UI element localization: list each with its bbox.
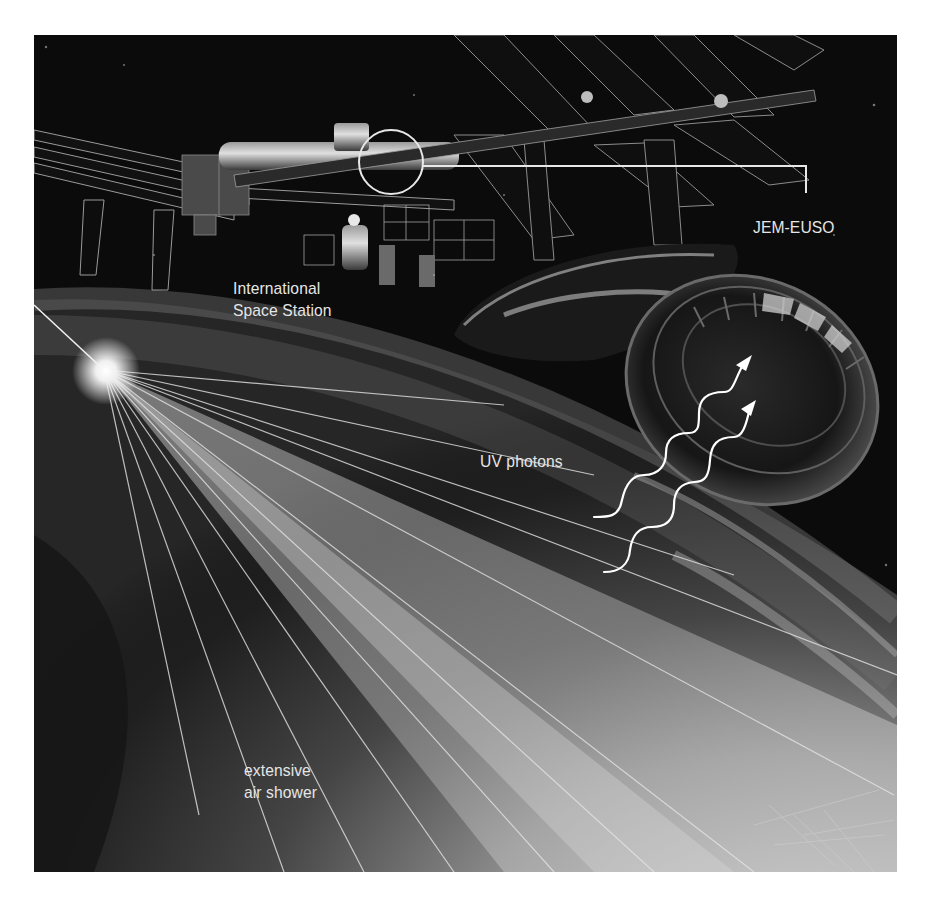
label-jem-euso: JEM-EUSO (753, 217, 835, 238)
label-eas-line1: extensive (244, 760, 311, 781)
illustration-frame: JEM-EUSO International Space Station UV … (34, 35, 897, 872)
label-uv-photons: UV photons (480, 451, 563, 472)
label-iss-line1: International (233, 278, 320, 299)
interaction-flash (72, 337, 140, 405)
scene-artwork (34, 35, 897, 872)
label-iss-line2: Space Station (233, 300, 332, 321)
label-eas-line2: air shower (244, 782, 317, 803)
